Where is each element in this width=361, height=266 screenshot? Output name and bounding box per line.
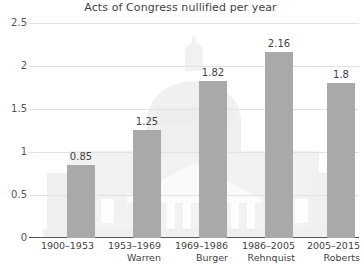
- x-axis-group-2005-2015: 2005–2015 Roberts: [295, 240, 360, 264]
- x-tick-label: 1986–2005: [230, 240, 295, 252]
- bar-1969-1986[interactable]: [199, 81, 227, 238]
- x-tick-label: 1900–1953: [29, 240, 94, 252]
- x-axis: 1900–1953 1953–1969 Warren 1969–1986 Bur…: [29, 240, 361, 266]
- x-tick-label: 2005–2015: [295, 240, 360, 252]
- x-axis-group-1969-1986: 1969–1986 Burger: [163, 240, 228, 264]
- bar-chart: Acts of Congress nullified per year 2.5 …: [0, 0, 361, 266]
- x-axis-group-1953-1969: 1953–1969 Warren: [96, 240, 161, 264]
- x-tick-sublabel: Rehnquist: [230, 252, 295, 264]
- x-tick-sublabel: Roberts: [295, 252, 360, 264]
- bar-value-label: 1.82: [189, 67, 237, 78]
- bar-2005-2015[interactable]: [327, 83, 355, 238]
- bar-value-label: 1.8: [317, 69, 359, 80]
- plot-area: 0.85 1.25 1.82 2.16 1.8: [29, 23, 359, 238]
- y-tick-label: 0.5: [3, 190, 27, 200]
- gridline-2-5: [29, 23, 359, 24]
- y-tick-label: 2: [3, 61, 27, 71]
- x-axis-group-1900-1953: 1900–1953: [29, 240, 94, 252]
- bar-value-label: 2.16: [255, 38, 303, 49]
- gridline-1-5: [29, 109, 359, 110]
- x-tick-sublabel: Burger: [163, 252, 228, 264]
- x-axis-group-1986-2005: 1986–2005 Rehnquist: [230, 240, 295, 264]
- x-tick-sublabel: Warren: [96, 252, 161, 264]
- y-tick-label: 1: [3, 147, 27, 157]
- bar-value-label: 0.85: [57, 151, 105, 162]
- bar-1953-1969[interactable]: [133, 130, 161, 238]
- bar-1900-1953[interactable]: [67, 165, 95, 238]
- x-tick-label: 1953–1969: [96, 240, 161, 252]
- bar-value-label: 1.25: [123, 116, 171, 127]
- y-tick-label: 2.5: [3, 18, 27, 28]
- y-tick-label: 1.5: [3, 104, 27, 114]
- x-tick-label: 1969–1986: [163, 240, 228, 252]
- y-axis: 2.5 2 1.5 1 0.5 0: [0, 23, 27, 238]
- chart-title: Acts of Congress nullified per year: [0, 1, 361, 14]
- bar-1986-2005[interactable]: [265, 52, 293, 238]
- y-tick-label: 0: [3, 233, 27, 243]
